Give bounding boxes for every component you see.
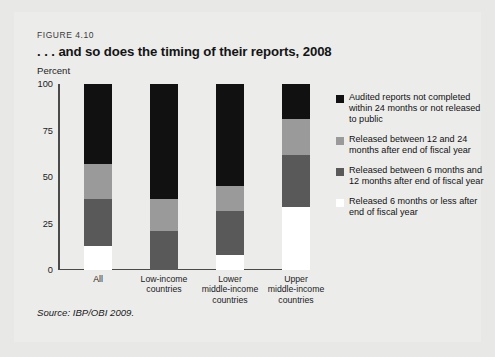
x-label-line: middle-income [250,284,342,294]
legend-swatch-icon [336,168,344,176]
x-label-upper-middle-income-countries: Upper middle-income countries [250,274,342,305]
bar-segment-released-6-months-or-less [282,207,310,270]
y-tick-75: 75 [43,126,53,136]
source-note: Source: IBP/OBI 2009. [37,307,134,318]
plot-area: 100 75 50 25 0 [58,84,310,270]
bar-segment-not-completed-24-months [216,84,244,186]
bar-segment-not-completed-24-months [84,84,112,164]
bar-segment-released-6-to-12-months [150,231,178,270]
y-axis-line [58,84,60,270]
bar-segment-released-12-to-24-months [282,119,310,154]
bar-segment-released-6-to-12-months [282,155,310,207]
figure-card: FIGURE 4.10 . . . and so does the timing… [14,12,481,342]
bar-low-income-countries[interactable] [150,84,178,270]
legend-item-released-6-to-12-months[interactable]: Released between 6 months and 12 months … [336,165,484,187]
bar-lower-middle-income-countries[interactable] [216,84,244,270]
bar-all[interactable] [84,84,112,270]
bar-segment-released-12-to-24-months [216,186,244,210]
bar-segment-released-12-to-24-months [84,164,112,199]
bar-segment-released-6-months-or-less [216,255,244,270]
y-tick-25: 25 [43,219,53,229]
legend-label: Released 6 months or less after end of f… [349,196,484,218]
legend-item-released-6-months-or-less[interactable]: Released 6 months or less after end of f… [336,196,484,218]
y-tick-100: 100 [37,79,53,89]
y-tick-50: 50 [43,172,53,182]
figure-page: FIGURE 4.10 . . . and so does the timing… [0,0,495,357]
legend-swatch-icon [336,95,344,103]
bar-segment-not-completed-24-months [150,84,178,199]
legend-label: Released between 12 and 24 months after … [349,134,484,156]
chart-legend: Audited reports not completed within 24 … [336,92,484,227]
figure-title: . . . and so does the timing of their re… [37,44,332,59]
bar-segment-released-6-months-or-less [84,246,112,270]
legend-item-not-completed-24-months[interactable]: Audited reports not completed within 24 … [336,92,484,125]
bar-segment-released-6-to-12-months [216,211,244,256]
y-axis-unit-label: Percent [37,65,70,76]
legend-swatch-icon [336,137,344,145]
bar-segment-released-12-to-24-months [150,199,178,231]
bar-upper-middle-income-countries[interactable] [282,84,310,270]
x-label-line: countries [250,295,342,305]
legend-label: Audited reports not completed within 24 … [349,92,484,125]
x-label-line: Upper [250,274,342,284]
legend-label: Released between 6 months and 12 months … [349,165,484,187]
bar-segment-not-completed-24-months [282,84,310,119]
legend-item-released-12-to-24-months[interactable]: Released between 12 and 24 months after … [336,134,484,156]
figure-number-label: FIGURE 4.10 [37,30,94,40]
legend-swatch-icon [336,199,344,207]
bar-segment-released-6-to-12-months [84,199,112,246]
